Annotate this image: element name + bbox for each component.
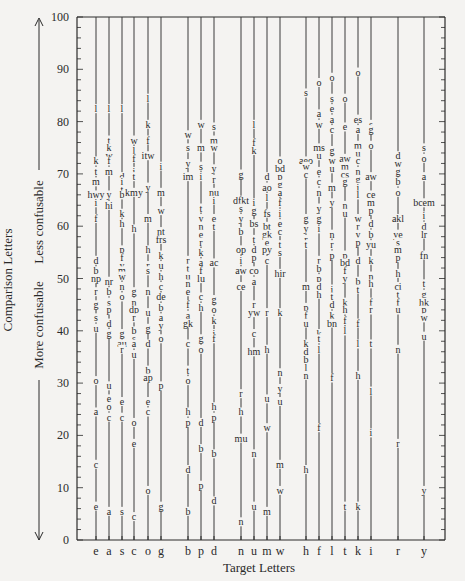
comparison-letter: e xyxy=(120,396,125,407)
comparison-letter: h xyxy=(239,406,244,417)
comparison-letter: t xyxy=(423,278,426,289)
comparison-letter: c xyxy=(94,459,99,470)
comparison-letter: w xyxy=(197,119,205,130)
comparison-letter: s xyxy=(146,265,150,276)
comparison-letter: b xyxy=(107,286,112,297)
comparison-letter: s xyxy=(199,161,203,172)
x-tick-label: o xyxy=(145,544,151,558)
comparison-letter: bcem xyxy=(413,197,435,208)
comparison-letter: m xyxy=(105,166,113,177)
comparison-letter: n xyxy=(304,370,309,381)
comparison-letter: l xyxy=(344,325,347,336)
comparison-letter: o xyxy=(94,375,99,386)
comparison-letter: c xyxy=(317,176,322,187)
comparison-letter: i xyxy=(423,210,426,221)
comparison-letter: b xyxy=(186,506,191,517)
comparison-letter: s xyxy=(278,247,282,258)
comparison-letter: p xyxy=(369,205,374,216)
comparison-letter: d xyxy=(369,218,374,229)
comparison-letter: k xyxy=(212,315,217,326)
x-tick-label: a xyxy=(106,544,112,558)
comparison-letter: s xyxy=(239,203,243,214)
comparison-letter: i xyxy=(370,427,373,438)
comparison-letter: c xyxy=(186,338,191,349)
comparison-letter: u xyxy=(94,323,99,334)
comparison-letter: ap xyxy=(143,372,152,383)
comparison-letter: c xyxy=(159,281,164,292)
comparison-letter: l xyxy=(108,103,111,114)
comparison-letter: b xyxy=(317,263,322,274)
comparison-letter: p xyxy=(159,380,164,391)
comparison-letter: c xyxy=(356,155,361,166)
comparison-letter: a xyxy=(94,406,99,417)
comparison-letter: t xyxy=(95,166,98,177)
comparison-letter: hm xyxy=(248,346,261,357)
comparison-letter: s xyxy=(94,312,98,323)
y-tick-label: 40 xyxy=(57,324,69,338)
comparison-letter: l xyxy=(357,338,360,349)
comparison-letter: u xyxy=(330,163,335,174)
comparison-letter: co xyxy=(249,265,258,276)
comparison-letter: t xyxy=(305,239,308,250)
comparison-letter: k xyxy=(252,145,257,156)
comparison-letter: y xyxy=(212,163,217,174)
comparison-letter: c xyxy=(107,412,112,423)
comparison-letter: g xyxy=(146,323,151,334)
comparison-letter: m xyxy=(157,187,165,198)
comparison-letter: s xyxy=(212,121,216,132)
comparison-letter: p xyxy=(186,417,191,428)
comparison-letter: akl xyxy=(392,213,404,224)
comparison-letter: d xyxy=(330,299,335,310)
x-tick-label: e xyxy=(93,544,98,558)
comparison-letter: o xyxy=(330,72,335,83)
comparison-letter: w xyxy=(263,422,271,433)
comparison-letter: w xyxy=(420,312,428,323)
comparison-letter: g xyxy=(304,213,309,224)
comparison-letter: u xyxy=(265,393,270,404)
comparison-letter: b xyxy=(239,226,244,237)
comparison-letter: h xyxy=(120,218,125,229)
comparison-letter: o xyxy=(159,333,164,344)
comparison-letter: a xyxy=(356,124,361,135)
comparison-letter: o xyxy=(186,375,191,386)
x-tick-label: u xyxy=(251,544,257,558)
x-tick-label: m xyxy=(262,544,272,558)
comparison-letter: c xyxy=(146,406,151,417)
column-n: gdfktsybopiawcerhmun xyxy=(229,17,253,540)
x-tick-label: h xyxy=(303,544,309,558)
comparison-letter: e xyxy=(317,166,322,177)
y-tick-label: 80 xyxy=(57,115,69,129)
comparison-letter: gk xyxy=(183,318,193,329)
column-i: sgoawcempdbyuknhfrtli xyxy=(364,17,377,540)
comparison-letter: b xyxy=(396,176,401,187)
more-confusable-label: More confusable xyxy=(31,281,46,369)
comparison-letter: m xyxy=(302,281,310,292)
comparison-letter: g xyxy=(330,145,335,156)
x-axis-title: Target Letters xyxy=(223,560,295,575)
comparison-letter: d xyxy=(146,338,151,349)
comparison-letter: n xyxy=(239,516,244,527)
comparison-letter: u xyxy=(107,380,112,391)
comparison-letter: k xyxy=(356,501,361,512)
comparison-letter: y xyxy=(278,383,283,394)
comparison-letter: e xyxy=(132,438,137,449)
x-tick-label: c xyxy=(131,544,136,558)
comparison-letter: b xyxy=(212,448,217,459)
comparison-letter: b xyxy=(199,443,204,454)
comparison-letter: n xyxy=(120,281,125,292)
y-axis-title: Comparison Letters xyxy=(0,229,15,332)
comparison-letter: w xyxy=(315,119,323,130)
comparison-letter: py xyxy=(262,244,272,255)
comparison-letter: y xyxy=(343,273,348,284)
x-tick-label: t xyxy=(343,544,347,558)
comparison-letter: np xyxy=(91,273,101,284)
x-tick-label: l xyxy=(330,544,334,558)
comparison-letter: n xyxy=(396,344,401,355)
x-tick-label: w xyxy=(276,544,285,558)
comparison-letter: i xyxy=(213,195,216,206)
comparison-letter: k xyxy=(146,119,151,130)
y-tick-label: 70 xyxy=(57,167,69,181)
comparison-letter: i xyxy=(240,255,243,266)
comparison-letter: t xyxy=(344,501,347,512)
column-l: oseacgwumynrpitdkbnf xyxy=(325,17,338,540)
